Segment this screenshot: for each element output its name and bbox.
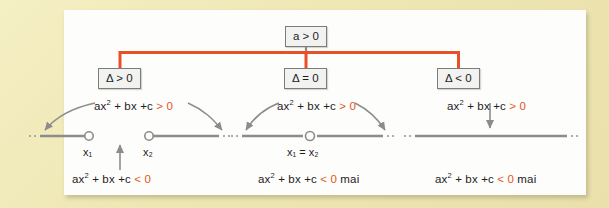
expr-1-pos-rel: > 0 (156, 100, 173, 112)
expr-negative-branch-3: ax2 + bx +c < 0 mai (435, 171, 536, 185)
expr-1-neg-prefix: ax (72, 173, 84, 185)
root-label-x1-equals-x2: x₁ = x₂ (287, 146, 319, 158)
curve-arrow-right-1 (188, 103, 222, 130)
expr-2-pos-rel: > 0 (339, 100, 356, 112)
node-delta-equals-zero[interactable]: Δ = 0 (284, 68, 327, 89)
expr-2-neg-prefix: ax (258, 173, 270, 185)
expr-positive-branch-2: ax2 + bx +c > 0 (277, 98, 356, 112)
expr-1-pos-prefix: ax (94, 100, 106, 112)
expr-3-pos-mid: + bx +c (464, 100, 509, 112)
expr-1-neg-mid: + bx +c (89, 173, 134, 185)
open-circle-x1 (85, 132, 93, 140)
expr-2-neg-suffix: mai (337, 173, 359, 185)
node-delta-greater-than-zero[interactable]: Δ > 0 (98, 68, 141, 89)
expr-2-pos-mid: + bx +c (294, 100, 339, 112)
node-a-greater-than-zero[interactable]: a > 0 (285, 26, 327, 47)
expr-positive-branch-1: ax2 + bx +c > 0 (94, 98, 173, 112)
expr-3-neg-rel: < 0 (497, 173, 514, 185)
expr-1-pos-mid: + bx +c (111, 100, 156, 112)
expr-positive-branch-3: ax2 + bx +c > 0 (447, 98, 526, 112)
curve-arrow-right-2 (355, 103, 385, 130)
curve-arrow-left-1 (45, 103, 95, 130)
slide-frame: a > 0 Δ > 0 Δ = 0 Δ < 0 ax2 + bx +c > 0 … (0, 0, 609, 208)
expr-2-neg-mid: + bx +c (275, 173, 320, 185)
expr-3-neg-mid: + bx +c (452, 173, 497, 185)
expr-negative-branch-1: ax2 + bx +c < 0 (72, 171, 151, 185)
node-delta-less-than-zero[interactable]: Δ < 0 (437, 68, 480, 89)
root-label-x2: x₂ (143, 146, 153, 158)
open-circle-x2 (145, 132, 153, 140)
expr-3-pos-rel: > 0 (509, 100, 526, 112)
expr-3-pos-prefix: ax (447, 100, 459, 112)
curve-arrow-left-2 (246, 103, 279, 130)
expr-3-neg-suffix: mai (514, 173, 536, 185)
expr-2-pos-prefix: ax (277, 100, 289, 112)
expr-2-neg-rel: < 0 (320, 173, 337, 185)
root-label-x1: x₁ (83, 146, 92, 158)
expr-1-neg-rel: < 0 (134, 173, 151, 185)
open-circle-x1-x2 (306, 132, 315, 141)
expr-3-neg-prefix: ax (435, 173, 447, 185)
expr-negative-branch-2: ax2 + bx +c < 0 mai (258, 171, 359, 185)
